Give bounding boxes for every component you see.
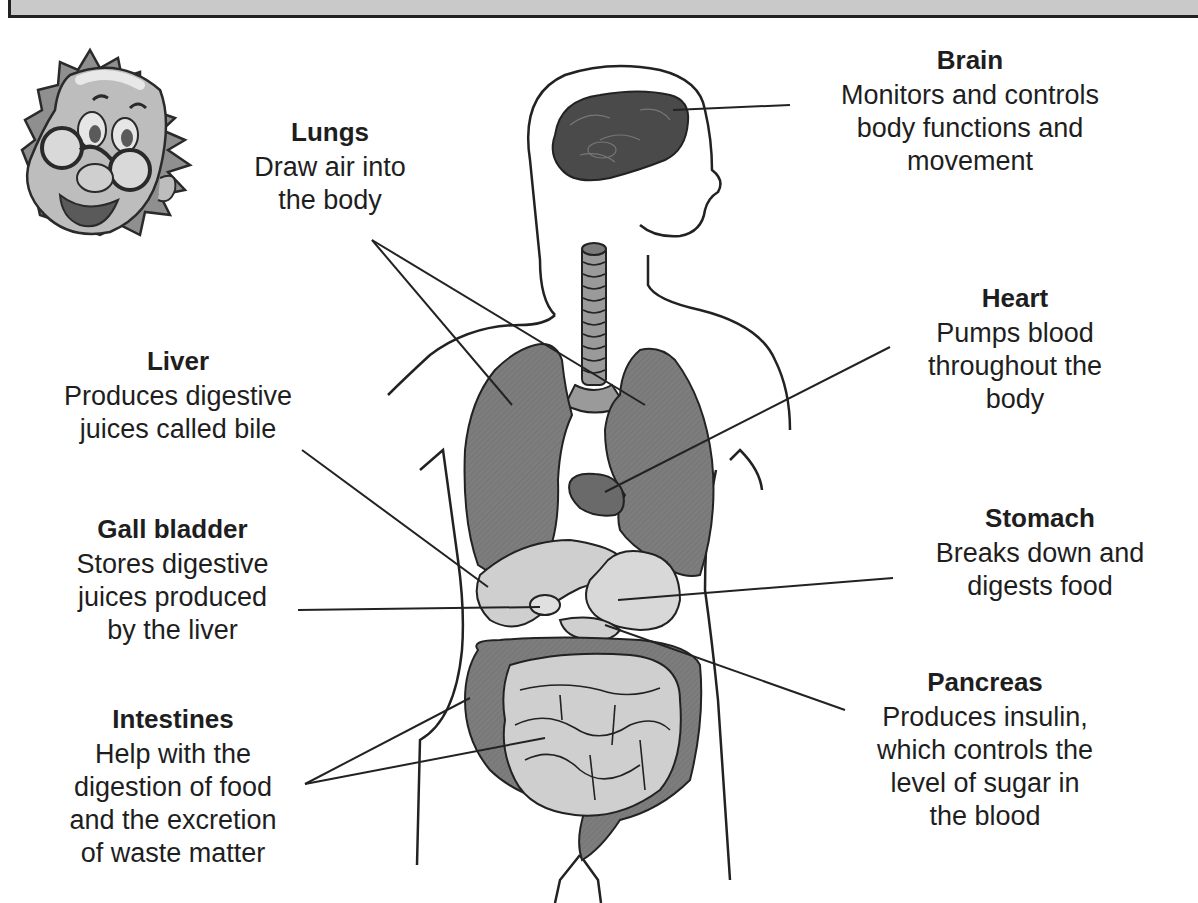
gall-bladder-organ (530, 595, 560, 615)
label-liver-desc: Produces digestive juices called bile (28, 380, 328, 446)
label-gall-bladder-title: Gall bladder (40, 513, 305, 546)
label-intestines: Intestines Help with the digestion of fo… (28, 703, 318, 870)
label-lungs-desc: Draw air into the body (225, 151, 435, 217)
mascot-icon (22, 50, 190, 235)
label-lungs-title: Lungs (225, 116, 435, 149)
label-pancreas: Pancreas Produces insulin, which control… (840, 666, 1130, 833)
label-brain-title: Brain (790, 44, 1150, 77)
label-pancreas-title: Pancreas (840, 666, 1130, 699)
label-heart-desc: Pumps blood throughout the body (885, 317, 1145, 416)
label-brain: Brain Monitors and controls body functio… (790, 44, 1150, 178)
label-stomach: Stomach Breaks down and digests food (900, 502, 1180, 603)
label-lungs: Lungs Draw air into the body (225, 116, 435, 217)
label-brain-desc: Monitors and controls body functions and… (790, 79, 1150, 178)
label-intestines-title: Intestines (28, 703, 318, 736)
label-liver: Liver Produces digestive juices called b… (28, 345, 328, 446)
label-heart: Heart Pumps blood throughout the body (885, 282, 1145, 416)
label-pancreas-desc: Produces insulin, which controls the lev… (840, 701, 1130, 833)
brain-organ (553, 92, 689, 181)
label-intestines-desc: Help with the digestion of food and the … (28, 738, 318, 870)
label-stomach-desc: Breaks down and digests food (900, 537, 1180, 603)
label-gall-bladder: Gall bladder Stores digestive juices pro… (40, 513, 305, 647)
label-gall-bladder-desc: Stores digestive juices produced by the … (40, 548, 305, 647)
right-lung (605, 349, 714, 576)
label-liver-title: Liver (28, 345, 328, 378)
label-heart-title: Heart (885, 282, 1145, 315)
label-stomach-title: Stomach (900, 502, 1180, 535)
